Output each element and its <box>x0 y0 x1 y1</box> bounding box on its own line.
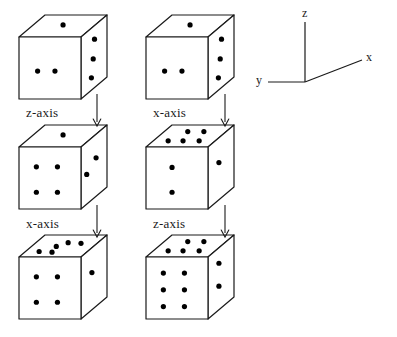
die-pip-top <box>166 248 171 253</box>
axis-label-z: z <box>302 6 307 21</box>
die-pip-right <box>216 160 221 165</box>
die-row3-col2 <box>145 234 235 320</box>
die-pip-top <box>180 248 185 253</box>
coordinate-axes <box>0 0 397 120</box>
die-pip-front <box>34 164 39 169</box>
die-front-face <box>146 257 208 319</box>
die-pip-top <box>166 138 171 143</box>
die-pip-top <box>78 241 83 246</box>
die-pip-top <box>197 248 202 253</box>
die-pip-front <box>182 287 187 292</box>
die-pip-right <box>89 270 94 275</box>
die-pip-top <box>197 138 202 143</box>
die-pip-front <box>161 304 166 309</box>
die-pip-top <box>54 244 59 249</box>
die-pip-top <box>201 239 206 244</box>
die-front-face <box>19 147 81 209</box>
die-pip-front <box>34 300 39 305</box>
die-pip-top <box>60 132 65 137</box>
die-pip-front <box>161 287 166 292</box>
die-pip-front <box>182 304 187 309</box>
die-pip-top <box>37 249 42 254</box>
die-pip-front <box>182 271 187 276</box>
die-pip-front <box>55 164 60 169</box>
figure-canvas: z-axisx-axisx-axisz-axiszxy <box>0 0 397 337</box>
die-pip-right <box>216 261 221 266</box>
die-pip-front <box>55 274 60 279</box>
die-pip-top <box>185 129 190 134</box>
die-pip-front <box>161 271 166 276</box>
die-pip-front <box>55 300 60 305</box>
die-pip-front <box>34 274 39 279</box>
die-pip-top <box>180 138 185 143</box>
axis-label-x: x <box>366 50 372 65</box>
die-pip-front <box>169 190 174 195</box>
die-front-face <box>146 147 208 209</box>
die-pip-front <box>34 190 39 195</box>
die-pip-right <box>216 284 221 289</box>
die-pip-top <box>66 240 71 245</box>
arrow-col2-step2 <box>219 205 232 239</box>
die-pip-top <box>185 239 190 244</box>
die-row3-col1 <box>18 234 108 320</box>
label-row2-col1: x-axis <box>26 216 59 232</box>
die-pip-front <box>169 165 174 170</box>
die-pip-right <box>84 172 89 177</box>
die-pip-top <box>49 250 54 255</box>
axis-line-x <box>305 60 362 82</box>
die-row2-col1 <box>18 124 108 210</box>
die-pip-front <box>55 190 60 195</box>
axis-label-y: y <box>256 73 262 88</box>
arrow-col1-step2 <box>91 205 104 239</box>
die-front-face <box>19 257 81 319</box>
label-row2-col2: z-axis <box>153 216 185 232</box>
die-row2-col2 <box>145 124 235 210</box>
die-pip-right <box>93 155 98 160</box>
die-pip-top <box>201 129 206 134</box>
